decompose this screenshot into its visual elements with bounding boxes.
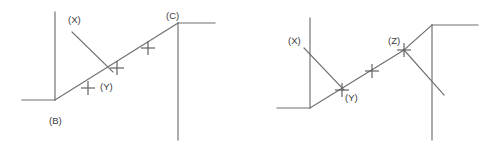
label-b-left: (B) <box>49 115 62 126</box>
figure-canvas: (X) (Y) (B) (C) <box>0 0 485 148</box>
diagram-left: (X) (Y) (B) (C) <box>22 10 215 140</box>
diagram-right: (X) (Y) (Z) <box>277 18 478 140</box>
diagonal-z-to-corner-line <box>404 25 432 50</box>
label-y-left: (Y) <box>100 81 113 92</box>
label-z-right: (Z) <box>388 35 400 46</box>
diagonal-x-descending-line <box>72 32 113 72</box>
label-c-left: (C) <box>166 10 179 21</box>
label-x-left: (X) <box>68 14 81 25</box>
tick-mark-1 <box>81 81 95 95</box>
tick-mark-3 <box>141 41 155 55</box>
tick-mark-2 <box>110 61 124 75</box>
label-y-right: (Y) <box>345 92 358 103</box>
label-x-right: (X) <box>288 35 301 46</box>
geometry-figure: (X) (Y) (B) (C) <box>0 0 485 148</box>
diagonal-z-descending-line <box>404 50 444 95</box>
